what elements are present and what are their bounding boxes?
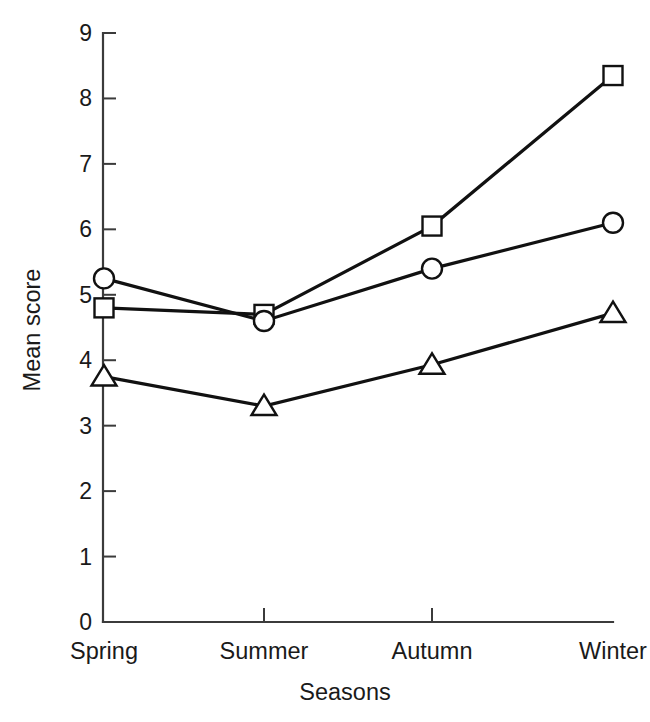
data-point-circle-winter [603, 213, 623, 233]
data-point-square-spring [95, 298, 114, 317]
x-axis-title: Seasons [299, 679, 390, 705]
series-triangle [92, 302, 626, 415]
x-axis-ticks [264, 608, 432, 622]
data-series-group [92, 66, 626, 415]
y-tick-label-0: 0 [79, 609, 92, 635]
y-tick-label-3: 3 [79, 413, 92, 439]
y-tick-label-2: 2 [79, 478, 92, 504]
series-line-square [104, 76, 613, 315]
x-tick-label-spring: Spring [70, 638, 138, 664]
y-axis-ticks [103, 33, 116, 622]
data-point-circle-spring [94, 268, 114, 288]
data-point-triangle-spring [92, 365, 117, 385]
data-point-triangle-winter [601, 302, 626, 322]
x-tick-label-winter: Winter [579, 638, 647, 664]
series-line-circle [104, 223, 613, 321]
y-tick-label-9: 9 [79, 20, 92, 46]
y-tick-label-5: 5 [79, 282, 92, 308]
y-tick-label-1: 1 [79, 544, 92, 570]
data-point-square-winter [604, 66, 623, 85]
y-tick-label-4: 4 [79, 347, 92, 373]
y-tick-label-7: 7 [79, 151, 92, 177]
x-axis-tick-labels: SpringSummerAutumnWinter [70, 638, 647, 664]
y-axis-title: Mean score [19, 269, 45, 392]
series-square [95, 66, 623, 324]
line-chart: 0123456789 SpringSummerAutumnWinter Seas… [0, 0, 650, 722]
x-tick-label-summer: Summer [220, 638, 309, 664]
series-line-triangle [104, 313, 613, 406]
x-tick-label-autumn: Autumn [392, 638, 473, 664]
data-point-circle-autumn [422, 259, 442, 279]
y-tick-label-8: 8 [79, 85, 92, 111]
chart-canvas: 0123456789 SpringSummerAutumnWinter Seas… [0, 0, 650, 722]
data-point-circle-summer [254, 311, 274, 331]
y-axis-tick-labels: 0123456789 [79, 20, 92, 635]
series-circle [94, 213, 623, 331]
data-point-square-autumn [423, 217, 442, 236]
y-tick-label-6: 6 [79, 216, 92, 242]
